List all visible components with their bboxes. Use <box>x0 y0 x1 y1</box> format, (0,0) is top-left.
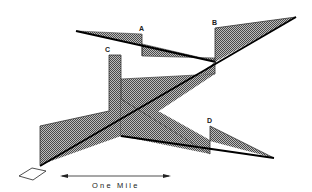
arrow-right-icon <box>163 174 171 178</box>
label-c: C <box>105 46 110 53</box>
label-b: B <box>212 19 217 26</box>
base-marker <box>19 168 46 180</box>
label-a: A <box>139 25 144 32</box>
segment-a: A <box>76 25 216 62</box>
line-a-b <box>76 31 216 62</box>
arrow-left-icon <box>60 174 68 178</box>
scale-label: One Mile <box>92 181 140 190</box>
diagram-canvas: A B C D One Mile <box>0 0 312 192</box>
scale-bar: One Mile <box>60 174 171 190</box>
segment-d: D <box>121 99 274 158</box>
label-d: D <box>207 117 212 124</box>
